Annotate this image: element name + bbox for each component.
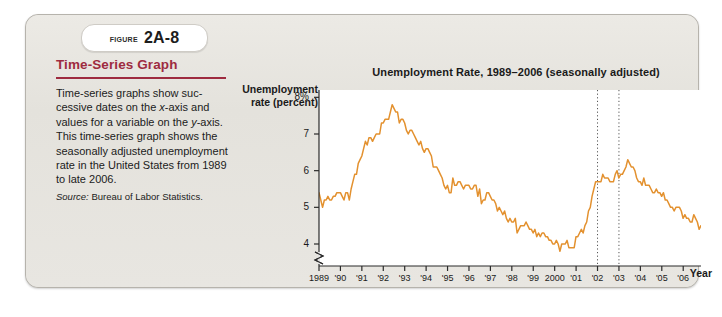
y-axis-break-glyph (315, 252, 323, 264)
chart-container: Unemployment Rate, 1989–2006 (seasonally… (226, 63, 716, 293)
figure-badge: Figure 2A-8 (81, 24, 208, 52)
chart-axes (286, 83, 716, 298)
chart-title: Unemployment Rate, 1989–2006 (seasonally… (316, 66, 716, 78)
sidebar-body: Time-series graphs show suc-cessive date… (56, 86, 228, 187)
source-label: Source: (56, 191, 89, 202)
figure-root: Figure 2A-8 Time-Series Graph Time-serie… (0, 0, 722, 317)
sidebar-title: Time-Series Graph (56, 57, 228, 72)
figure-panel: Figure 2A-8 Time-Series Graph Time-serie… (25, 14, 699, 288)
figure-label: Figure (110, 33, 138, 44)
figure-number: 2A-8 (144, 29, 179, 47)
sidebar-divider (56, 77, 226, 79)
sidebar-source: Source: Bureau of Labor Statistics. (56, 191, 228, 202)
source-value: Bureau of Labor Statistics. (89, 191, 203, 202)
sidebar-text-column: Time-Series Graph Time-series graphs sho… (56, 57, 228, 202)
